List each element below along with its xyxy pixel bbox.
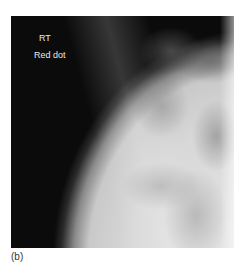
red-dot-label: Red dot [34, 51, 66, 60]
side-marker-label: RT [39, 34, 51, 43]
panel-label: (b) [11, 251, 23, 262]
image-edge [220, 16, 234, 248]
radiograph-image: RT Red dot [11, 16, 234, 248]
